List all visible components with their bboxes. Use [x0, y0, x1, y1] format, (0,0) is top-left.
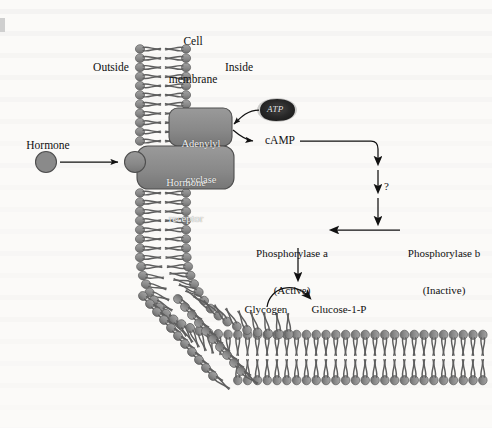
cell-membrane-label-line2: membrane: [158, 73, 228, 86]
arrow-camp-to-cascade: [300, 141, 378, 161]
camp-label: cAMP: [258, 134, 302, 147]
atp-label: ATP: [267, 104, 284, 114]
phosphorylase-b-label-line2: (Inactive): [396, 284, 492, 296]
hormone-receptor-label-line2: receptor: [142, 213, 230, 225]
arrow-cyclase-to-camp: [233, 130, 253, 141]
hormone-label: Hormone: [17, 139, 79, 152]
arrow-atp-to-cyclase: [234, 110, 259, 124]
phosphorylase-a-label-line2: (Active): [246, 284, 338, 296]
adenylyl-cyclase-label-line1: Adenylyl: [171, 138, 231, 150]
question-mark-label: ?: [384, 180, 389, 192]
hormone-molecule: [36, 152, 57, 173]
figure-canvas: Cell membrane Outside Inside Hormone Hor…: [0, 0, 492, 428]
phosphorylase-a-label-line1: Phosphorylase a: [246, 247, 338, 259]
cell-membrane-label-line1: Cell: [158, 35, 228, 48]
adenylyl-cyclase-label-line2: cyclase: [171, 174, 231, 186]
glucose-1-p-label: Glucose-1-P: [300, 303, 378, 315]
adenylyl-cyclase-label: Adenylyl cyclase: [171, 114, 231, 211]
phosphorylase-b-label: Phosphorylase b (Inactive): [396, 222, 492, 321]
glycogen-label: Glycogen: [232, 303, 300, 315]
outside-label: Outside: [83, 61, 139, 74]
phosphorylase-b-label-line1: Phosphorylase b: [396, 247, 492, 259]
inside-label: Inside: [215, 61, 263, 74]
